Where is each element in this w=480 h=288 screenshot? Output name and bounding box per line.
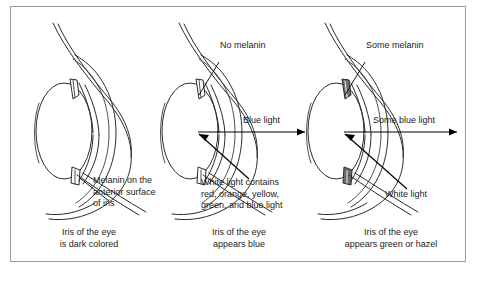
white-light-line-1: White light contains — [201, 177, 283, 189]
caption-blue-eye: Iris of the eye appears blue — [163, 226, 315, 250]
no-melanin-label-text: No melanin — [220, 40, 266, 52]
melanin-label-line-2: anterior surface — [93, 187, 156, 199]
panel-blue-eye: No melanin Blue light White light contai… — [163, 7, 315, 263]
some-melanin-label-text: Some melanin — [366, 40, 424, 52]
caption-dark-line-2: is dark colored — [13, 238, 165, 250]
caption-dark-line-1: Iris of the eye — [13, 226, 165, 238]
panel-green-hazel-eye: Some melanin Some blue light White light… — [315, 7, 467, 263]
caption-green-line-1: Iris of the eye — [315, 226, 467, 238]
melanin-label-line-3: of iris — [93, 198, 156, 210]
white-light-label: White light — [385, 189, 427, 201]
melanin-label-line-1: Melanin on the — [93, 175, 156, 187]
white-light-composition-label: White light contains red, orange, yellow… — [201, 177, 283, 212]
some-melanin-label: Some melanin — [366, 40, 424, 52]
caption-blue-line-1: Iris of the eye — [163, 226, 315, 238]
blue-light-label: Blue light — [243, 115, 280, 127]
melanin-anterior-surface-label: Melanin on the anterior surface of iris — [93, 175, 156, 210]
white-light-label-text: White light — [385, 189, 427, 201]
panel-dark-eye: Melanin on the anterior surface of iris … — [13, 7, 165, 263]
some-blue-light-label-text: Some blue light — [373, 115, 435, 127]
caption-green-line-2: appears green or hazel — [315, 238, 467, 250]
white-light-line-3: green, and blue light — [201, 200, 283, 212]
some-blue-light-ray — [344, 129, 457, 136]
eye-diagram-dark — [13, 7, 165, 263]
figure-frame: Melanin on the anterior surface of iris … — [10, 6, 466, 262]
blue-light-label-text: Blue light — [243, 115, 280, 127]
caption-green-hazel-eye: Iris of the eye appears green or hazel — [315, 226, 467, 250]
no-melanin-label: No melanin — [220, 40, 266, 52]
caption-dark-eye: Iris of the eye is dark colored — [13, 226, 165, 250]
some-blue-light-label: Some blue light — [373, 115, 435, 127]
caption-blue-line-2: appears blue — [163, 238, 315, 250]
white-light-line-2: red, orange, yellow, — [201, 189, 283, 201]
